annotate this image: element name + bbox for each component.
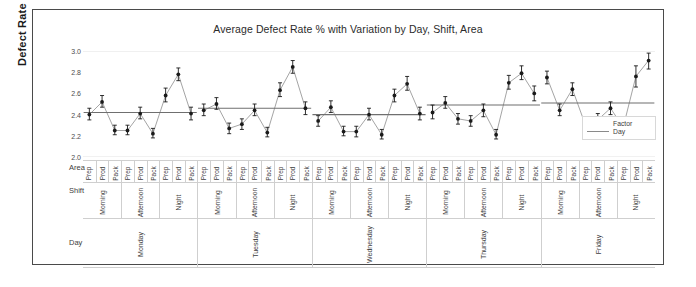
area-tick: Pack xyxy=(223,161,236,182)
y-tick-label: 3.0 xyxy=(71,48,81,55)
data-point-marker xyxy=(113,129,117,133)
shift-tick-text: Morning xyxy=(442,190,449,215)
data-point-marker xyxy=(520,71,524,75)
area-tick-text: Prep xyxy=(620,167,627,181)
area-tick: Pack xyxy=(490,161,503,182)
area-tick: Prep xyxy=(236,161,249,182)
area-tick: Prep xyxy=(541,161,554,182)
y-tick-label: 2.6 xyxy=(71,90,81,97)
data-point-marker xyxy=(570,87,574,91)
legend-title: Factor xyxy=(613,120,651,127)
area-tick-text: Prod xyxy=(404,167,411,181)
data-point-marker xyxy=(100,100,104,104)
area-tick: Prep xyxy=(426,161,439,182)
legend-item-day: Day xyxy=(587,128,651,135)
axis-band-shift: MorningAfternoonNightMorningAfternoonNig… xyxy=(83,182,655,218)
shift-tick: Night xyxy=(502,183,540,218)
data-point-marker xyxy=(253,108,257,112)
area-tick-text: Pack xyxy=(188,166,195,180)
area-tick-text: Pack xyxy=(302,166,309,180)
data-point-marker xyxy=(545,76,549,80)
area-tick: Prod xyxy=(591,161,604,182)
data-point-marker xyxy=(558,108,562,112)
area-tick-text: Prod xyxy=(328,167,335,181)
area-tick: Prep xyxy=(83,161,96,182)
area-tick-text: Prod xyxy=(213,167,220,181)
area-tick: Prod xyxy=(630,161,643,182)
area-tick: Pack xyxy=(337,161,350,182)
area-tick: Prod xyxy=(286,161,299,182)
area-tick: Prep xyxy=(388,161,401,182)
group-connector-line xyxy=(204,67,306,133)
data-point-marker xyxy=(647,59,651,63)
shift-tick-text: Night xyxy=(404,195,411,211)
row-label-day: Day xyxy=(69,238,82,247)
area-tick: Prep xyxy=(312,161,325,182)
data-point-marker xyxy=(418,112,422,116)
data-point-marker xyxy=(215,102,219,106)
day-tick-text: Wednesday xyxy=(366,226,373,263)
shift-tick: Morning xyxy=(541,183,579,218)
area-tick: Prep xyxy=(579,161,592,182)
data-point-marker xyxy=(431,111,435,115)
shift-tick-text: Morning xyxy=(328,190,335,215)
area-tick: Pack xyxy=(566,161,579,182)
axis-band-day: MondayTuesdayWednesdayThursdayFriday xyxy=(83,218,655,268)
area-tick-text: Prod xyxy=(595,167,602,181)
data-point-marker xyxy=(189,112,193,116)
area-tick: Prod xyxy=(134,161,147,182)
area-tick-text: Prep xyxy=(544,167,551,181)
data-point-marker xyxy=(354,130,358,134)
area-tick-text: Prep xyxy=(86,167,93,181)
area-tick-text: Prod xyxy=(633,167,640,181)
area-tick-text: Pack xyxy=(455,166,462,180)
day-tick-text: Tuesday xyxy=(252,231,259,258)
area-tick-text: Pack xyxy=(226,166,233,180)
day-tick-text: Thursday xyxy=(480,230,487,259)
area-tick: Prod xyxy=(210,161,223,182)
shift-tick-text: Morning xyxy=(557,190,564,215)
data-point-marker xyxy=(367,113,371,117)
shift-tick: Night xyxy=(159,183,197,218)
area-tick-text: Prod xyxy=(519,167,526,181)
day-tick: Friday xyxy=(541,219,655,267)
data-point-marker xyxy=(329,105,333,109)
day-tick-text: Friday xyxy=(595,235,602,254)
area-tick: Pack xyxy=(108,161,121,182)
area-tick: Prod xyxy=(363,161,376,182)
data-point-marker xyxy=(443,101,447,105)
area-tick-text: Prep xyxy=(430,167,437,181)
area-tick-text: Prep xyxy=(201,167,208,181)
area-tick-text: Pack xyxy=(646,166,653,180)
day-tick-text: Monday xyxy=(137,232,144,257)
area-tick-text: Prep xyxy=(506,167,513,181)
plot-svg xyxy=(83,51,655,157)
area-tick: Prep xyxy=(159,161,172,182)
area-tick-text: Prod xyxy=(175,167,182,181)
area-tick: Pack xyxy=(147,161,160,182)
area-tick-text: Pack xyxy=(150,166,157,180)
axis-band-area: PrepProdPackPrepProdPackPrepProdPackPrep… xyxy=(83,160,655,182)
shift-tick-text: Night xyxy=(519,195,526,211)
area-tick: Prod xyxy=(172,161,185,182)
area-tick-text: Pack xyxy=(569,166,576,180)
legend-item-label: Day xyxy=(613,128,625,135)
area-tick-text: Prep xyxy=(163,167,170,181)
data-point-marker xyxy=(176,72,180,76)
area-tick: Pack xyxy=(299,161,312,182)
shift-tick-text: Night xyxy=(175,195,182,211)
day-tick: Thursday xyxy=(426,219,540,267)
shift-tick: Afternoon xyxy=(236,183,274,218)
data-point-marker xyxy=(164,94,168,98)
area-tick: Prod xyxy=(401,161,414,182)
area-tick-text: Prod xyxy=(557,167,564,181)
area-tick-text: Pack xyxy=(417,166,424,180)
plot-area xyxy=(83,51,655,157)
area-tick: Prod xyxy=(248,161,261,182)
area-tick-text: Pack xyxy=(379,166,386,180)
area-tick: Prod xyxy=(325,161,338,182)
shift-tick-text: Morning xyxy=(99,190,106,215)
shift-tick-text: Afternoon xyxy=(137,188,144,217)
area-tick: Prep xyxy=(274,161,287,182)
area-tick: Prod xyxy=(477,161,490,182)
